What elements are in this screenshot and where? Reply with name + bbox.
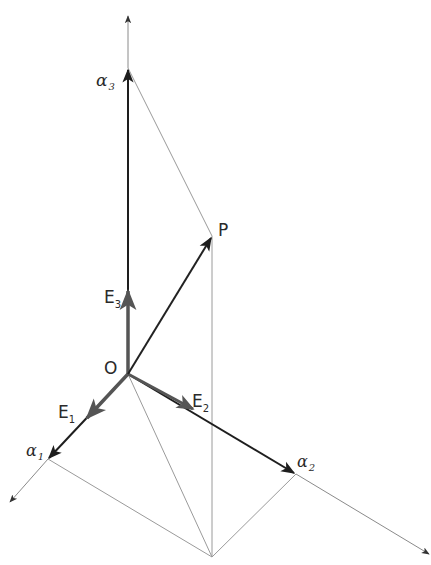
axis-2-extension [296,474,429,554]
position-vector-OP [128,238,211,374]
label-E1: E1 [58,402,75,425]
construction-line-alpha2-to-base [212,474,296,557]
label-E3: E3 [104,287,121,310]
label-E2: E2 [192,391,209,414]
construction-line-alpha1-to-base [48,459,212,557]
axis-1-extension [10,459,48,502]
label-P: P [218,220,228,240]
label-alpha1: α1 [26,441,44,462]
E2-basis-vector [128,374,193,409]
label-alpha2: α2 [297,452,315,473]
vector-diagram: α3 P E3 O E1 E2 α1 α2 [0,0,431,565]
label-origin: O [104,358,117,378]
construction-line-alpha3-to-P [128,68,212,236]
E1-basis-vector [87,374,128,418]
label-alpha3: α3 [96,70,115,92]
